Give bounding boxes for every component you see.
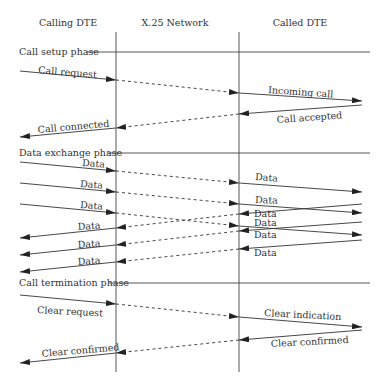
phase-label-termination: Call termination phase: [19, 277, 129, 288]
arrow-data-deliver-1: [239, 183, 362, 192]
label-data-receive-2: Data: [77, 237, 101, 250]
arrow-data-net-in-3: [116, 249, 239, 262]
arrow-clear-request: [20, 295, 116, 304]
phase-label-data: Data exchange phase: [19, 147, 122, 158]
arrow-network-clear-confirmed: [116, 340, 239, 353]
label-data-out-2: Data: [80, 178, 104, 191]
arrow-network-call-accepted: [116, 114, 239, 128]
arrow-data-receive-3: [20, 262, 116, 272]
phase-label-setup: Call setup phase: [19, 46, 99, 57]
arrow-data-net-out-2: [116, 192, 239, 204]
label-data-receive-3: Data: [77, 254, 101, 267]
label-data-in-3: Data: [254, 247, 277, 258]
label-data-deliver-3: Data: [254, 217, 277, 228]
label-clear-request: Clear request: [37, 304, 103, 318]
diagram-canvas: Calling DTE X.25 Network Called DTE Call…: [0, 0, 387, 389]
arrow-network-call-request: [116, 80, 239, 93]
header-calling-dte: Calling DTE: [39, 17, 97, 28]
header-called-dte: Called DTE: [273, 17, 328, 28]
header-x25-network: X.25 Network: [142, 17, 209, 28]
arrow-data-net-in-1: [116, 214, 239, 228]
label-data-in-2: Data: [254, 229, 277, 240]
arrow-network-clear-request: [116, 304, 239, 317]
arrow-data-receive-1: [20, 228, 116, 238]
label-data-deliver-2: Data: [255, 194, 278, 206]
arrow-data-receive-2: [20, 245, 116, 255]
arrow-data-net-out-1: [116, 171, 239, 183]
label-call-accepted: Call accepted: [276, 109, 342, 125]
arrow-data-net-out-3: [116, 213, 239, 226]
label-data-out-1: Data: [82, 157, 106, 170]
label-data-out-3: Data: [80, 199, 104, 212]
label-data-receive-1: Data: [77, 219, 101, 232]
label-call-request: Call request: [38, 64, 98, 80]
arrow-data-net-in-2: [116, 231, 239, 245]
label-data-deliver-1: Data: [255, 171, 279, 184]
x25-sequence-diagram: Calling DTE X.25 Network Called DTE Call…: [0, 0, 387, 389]
label-incoming-call: Incoming call: [268, 84, 334, 100]
